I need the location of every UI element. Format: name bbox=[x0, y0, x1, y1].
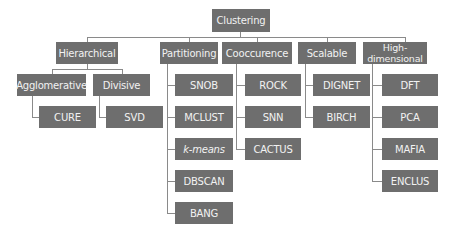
node-dft: DFT bbox=[382, 74, 438, 96]
connector bbox=[87, 37, 406, 38]
node-birch: BIRCH bbox=[313, 106, 370, 128]
node-divisive: Divisive bbox=[93, 74, 150, 96]
connector bbox=[372, 85, 382, 86]
connector bbox=[372, 117, 382, 118]
connector bbox=[167, 64, 168, 213]
node-snn: SNN bbox=[245, 106, 301, 128]
node-partitioning: Partitioning bbox=[160, 42, 218, 64]
connector bbox=[236, 149, 245, 150]
node-agglomerative: Agglomerative bbox=[17, 74, 86, 96]
connector bbox=[305, 85, 313, 86]
connector bbox=[236, 85, 245, 86]
connector bbox=[372, 64, 373, 182]
connector bbox=[167, 181, 175, 182]
connector bbox=[167, 117, 175, 118]
connector bbox=[236, 64, 237, 150]
connector bbox=[99, 117, 106, 118]
node-mafia: MAFIA bbox=[382, 138, 438, 160]
node-mclust: MCLUST bbox=[175, 106, 233, 128]
node-dbscan: DBSCAN bbox=[175, 170, 233, 192]
node-rock: ROCK bbox=[245, 74, 301, 96]
node-cure: CURE bbox=[39, 106, 96, 128]
connector bbox=[167, 213, 175, 214]
connector bbox=[305, 117, 313, 118]
node-high-dimensional: High-dimensional bbox=[363, 42, 427, 64]
node-bang: BANG bbox=[175, 202, 233, 224]
connector bbox=[167, 149, 175, 150]
node-snob: SNOB bbox=[175, 74, 233, 96]
node-dignet: DIGNET bbox=[313, 74, 370, 96]
node-hierarchical: Hierarchical bbox=[56, 42, 118, 64]
node-scalable: Scalable bbox=[298, 42, 356, 64]
node-pca: PCA bbox=[382, 106, 438, 128]
connector bbox=[99, 96, 100, 118]
node-cooccurence: Cooccurence bbox=[222, 42, 292, 64]
node-enclus: ENCLUS bbox=[382, 170, 438, 192]
connector bbox=[372, 181, 382, 182]
node-root: Clustering bbox=[212, 9, 270, 32]
connector bbox=[236, 117, 245, 118]
connector bbox=[32, 96, 33, 118]
node-svd: SVD bbox=[106, 106, 163, 128]
connector bbox=[167, 85, 175, 86]
connector bbox=[52, 69, 123, 70]
node-cactus: CACTUS bbox=[245, 138, 301, 160]
node-k-means: k-means bbox=[175, 138, 233, 160]
connector bbox=[305, 64, 306, 118]
clustering-taxonomy-diagram: Clustering Hierarchical Partitioning Coo… bbox=[0, 0, 455, 234]
connector bbox=[372, 149, 382, 150]
connector bbox=[32, 117, 39, 118]
